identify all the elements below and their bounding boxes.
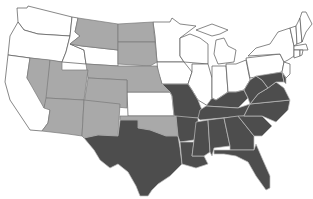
state-wisconsin bbox=[180, 34, 208, 64]
state-connecticut bbox=[294, 50, 300, 58]
state-new-mexico bbox=[82, 100, 120, 138]
map-canvas bbox=[0, 0, 313, 199]
state-south-dakota bbox=[118, 42, 157, 66]
state-maine bbox=[300, 12, 312, 42]
state-utah bbox=[46, 60, 88, 100]
state-iowa bbox=[157, 62, 192, 84]
state-montana bbox=[70, 18, 118, 50]
state-florida bbox=[214, 144, 270, 190]
us-states-map bbox=[0, 0, 313, 199]
state-north-dakota bbox=[118, 22, 155, 42]
state-rhode-island bbox=[300, 50, 303, 56]
state-kansas bbox=[127, 92, 174, 116]
